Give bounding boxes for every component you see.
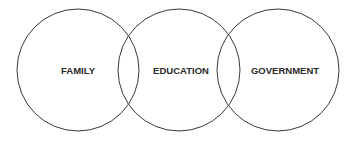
label-education: EDUCATION: [153, 65, 209, 76]
label-government: GOVERNMENT: [251, 65, 319, 76]
venn-diagram: FAMILY EDUCATION GOVERNMENT: [0, 0, 354, 141]
label-family: FAMILY: [61, 65, 96, 76]
